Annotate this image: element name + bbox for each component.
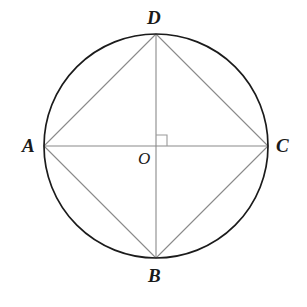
point-label-D: D	[147, 8, 161, 27]
chord-CB-line	[156, 146, 268, 258]
chord-DC-line	[156, 34, 268, 146]
point-label-C: C	[276, 136, 289, 155]
point-label-A: A	[22, 136, 35, 155]
geometry-canvas	[0, 0, 307, 307]
right-angle-marker-icon	[156, 135, 167, 146]
chord-AD-line	[44, 34, 156, 146]
point-label-O: O	[138, 150, 150, 167]
geometry-figure: D A C B O	[0, 0, 307, 307]
point-label-B: B	[148, 266, 161, 285]
